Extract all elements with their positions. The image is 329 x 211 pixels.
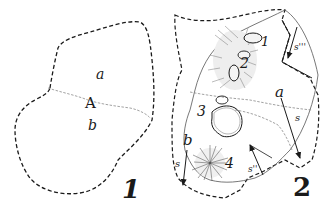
feature-2-lower bbox=[229, 65, 239, 81]
panel-1-divider bbox=[48, 88, 150, 118]
panel-number-2: 2 bbox=[293, 172, 311, 202]
feature-3-inner bbox=[214, 108, 240, 134]
label-feature-1: 1 bbox=[261, 34, 269, 49]
label-region-a: a bbox=[275, 83, 284, 101]
label-s-bottom: s'' bbox=[248, 164, 258, 174]
panel-2: 1 2 3 4 a b s s s''' s'' 2 bbox=[172, 10, 319, 202]
feature-3-shape bbox=[212, 106, 242, 137]
panel-2-boundary bbox=[190, 92, 312, 110]
panel-1: a A b 1 bbox=[15, 22, 154, 204]
label-A: A bbox=[84, 94, 96, 112]
feature-4-spikes bbox=[192, 145, 228, 181]
label-feature-3: 3 bbox=[197, 103, 206, 119]
diagram-canvas: a A b 1 1 2 3 4 a bbox=[0, 0, 329, 211]
label-feature-4: 4 bbox=[224, 155, 234, 171]
label-s-left: s bbox=[175, 158, 180, 169]
label-a: a bbox=[96, 66, 104, 82]
label-region-b: b bbox=[183, 131, 193, 149]
arrow-s-left bbox=[183, 150, 187, 185]
label-s-main: s bbox=[295, 112, 300, 123]
panel-2-boundary-2 bbox=[235, 110, 292, 150]
label-feature-2: 2 bbox=[239, 55, 249, 71]
label-b: b bbox=[88, 117, 97, 133]
panel-number-1: 1 bbox=[122, 174, 140, 204]
feature-1-outline bbox=[244, 33, 262, 43]
figure: a A b 1 1 2 3 4 a bbox=[0, 0, 329, 211]
label-s-top-right: s''' bbox=[294, 42, 306, 52]
